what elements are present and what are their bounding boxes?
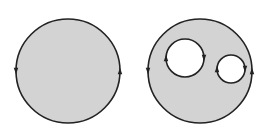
disk-with-two-holes-hole-2 (217, 55, 245, 83)
simple-disk-figure (14, 19, 122, 123)
disk-with-two-holes-hole-1 (166, 39, 204, 77)
holed-disk-figure (146, 19, 254, 123)
simple-disk-outer-boundary (16, 19, 120, 123)
diagram-canvas (0, 0, 261, 133)
